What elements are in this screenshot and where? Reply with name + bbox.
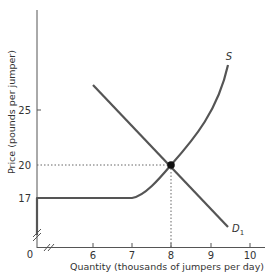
supply-demand-chart: 25 20 17 0 6 7 8 9 10 Quantity (thousand… bbox=[0, 0, 275, 272]
supply-label: S bbox=[226, 51, 233, 62]
x-tick-8: 8 bbox=[168, 250, 174, 261]
supply-curve bbox=[37, 65, 228, 235]
y-tick-20: 20 bbox=[18, 160, 31, 171]
x-tick-6: 6 bbox=[90, 250, 96, 261]
equilibrium-point bbox=[167, 161, 175, 169]
x-tick-9: 9 bbox=[208, 250, 214, 261]
y-tick-17: 17 bbox=[18, 193, 31, 204]
y-axis-title: Price (pounds per jumper) bbox=[6, 50, 17, 174]
y-tick-25: 25 bbox=[18, 105, 31, 116]
origin-label: 0 bbox=[27, 249, 33, 260]
x-tick-10: 10 bbox=[244, 250, 257, 261]
demand-curve bbox=[93, 85, 228, 227]
x-axis-title: Quantity (thousands of jumpers per day) bbox=[70, 261, 264, 272]
x-tick-7: 7 bbox=[129, 250, 135, 261]
demand-label: D1 bbox=[232, 223, 244, 237]
